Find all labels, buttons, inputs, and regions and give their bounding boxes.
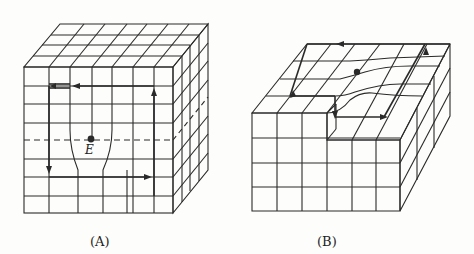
arrow-down-icon xyxy=(46,166,52,174)
cube-b-side-face xyxy=(400,44,450,211)
burgers-circuit-a xyxy=(46,83,157,196)
arrow-down-icon xyxy=(332,111,338,119)
cube-a xyxy=(24,24,208,213)
figure-label-a: (A) xyxy=(90,234,110,249)
cube-a-side-face xyxy=(173,24,208,213)
cube-a-top-face xyxy=(24,24,208,67)
burgers-circuit-b xyxy=(290,41,450,120)
diagram-canvas xyxy=(0,0,474,254)
arrow-left-icon xyxy=(336,41,344,47)
arrow-up-icon xyxy=(151,88,157,96)
dislocation-point-e xyxy=(88,136,95,143)
point-label-e: E xyxy=(85,143,94,157)
arrow-right-icon xyxy=(144,174,152,180)
cube-b xyxy=(252,41,450,211)
dislocation-point-b xyxy=(354,69,360,75)
cube-a-front-face xyxy=(24,67,173,213)
figure-label-b: (B) xyxy=(317,234,337,249)
cube-b-front-face xyxy=(252,113,400,211)
arrow-left-icon xyxy=(72,83,80,89)
